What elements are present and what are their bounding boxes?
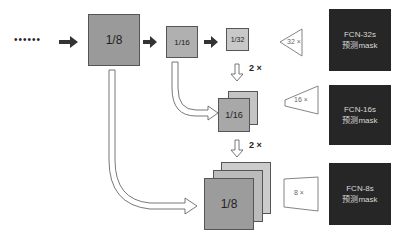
pool3-label: 1/8 <box>106 33 123 47</box>
fcn16-output: FCN-16s 预测mask <box>329 85 391 145</box>
upsample-arrow-2 <box>231 140 243 157</box>
stage16-label: 1/16 <box>225 110 243 120</box>
fcn32-caption: 预测mask <box>342 40 377 51</box>
skip-arrow-16 <box>172 62 218 120</box>
input-ellipsis: •••••• <box>14 34 41 45</box>
fcn8-output: FCN-8s 预测mask <box>329 163 391 225</box>
scale-32-label: 32 × <box>287 38 301 45</box>
fcn32-name: FCN-32s <box>344 29 376 40</box>
scale-8-label: 8 × <box>294 189 304 196</box>
upsample-arrow-1 <box>231 64 243 81</box>
pool5-label: 1/32 <box>231 36 245 43</box>
scale-16-label: 16 × <box>294 96 308 103</box>
upsample-label-1: 2 × <box>249 63 262 73</box>
stage8-front: 1/8 <box>204 178 254 230</box>
pool4-block: 1/16 <box>166 26 198 58</box>
pool4-label: 1/16 <box>174 38 190 47</box>
skip-arrow-8 <box>109 70 197 214</box>
stage8-label: 1/8 <box>221 197 238 211</box>
pool5-block: 1/32 <box>226 28 249 51</box>
fcn32-output: FCN-32s 预测mask <box>329 9 391 71</box>
upsample-label-2: 2 × <box>249 140 262 150</box>
fcn16-caption: 预测mask <box>342 115 377 126</box>
fcn16-name: FCN-16s <box>344 104 376 115</box>
pool3-block: 1/8 <box>88 14 140 66</box>
fcn8-name: FCN-8s <box>346 183 374 194</box>
stage16-front: 1/16 <box>218 98 250 132</box>
fcn8-caption: 预测mask <box>342 194 377 205</box>
